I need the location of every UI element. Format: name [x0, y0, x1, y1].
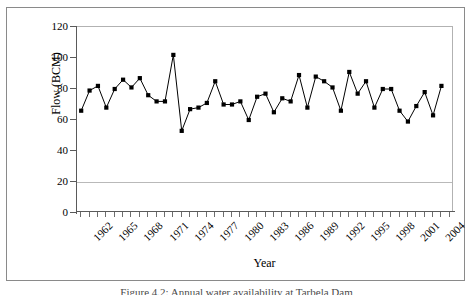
- data-point-marker: [188, 107, 192, 111]
- x-axis-tick: [223, 212, 224, 217]
- data-point-marker: [372, 106, 376, 110]
- series-line: [81, 55, 441, 131]
- x-axis-tick-label: 1992: [343, 220, 366, 243]
- x-axis-tick: [432, 212, 433, 217]
- x-axis-tick: [265, 212, 266, 217]
- x-axis-tick: [348, 212, 349, 217]
- x-axis-tick: [407, 212, 408, 217]
- data-point-marker: [154, 99, 158, 103]
- x-axis-tick-label: 1968: [142, 220, 165, 243]
- x-axis-tick: [323, 212, 324, 217]
- x-axis-tick: [122, 212, 123, 217]
- y-axis-title: Flow (BCM): [49, 24, 64, 144]
- figure-container: 020406080100120 Flow (BCM) 1962196519681…: [0, 0, 473, 295]
- x-axis-tick: [80, 212, 81, 217]
- data-point-marker: [280, 96, 284, 100]
- data-point-marker: [180, 129, 184, 133]
- x-axis-tick: [214, 212, 215, 217]
- x-axis-tick-label: 1995: [368, 220, 391, 243]
- x-axis-tick: [89, 212, 90, 217]
- x-axis-tick: [156, 212, 157, 217]
- data-point-marker: [364, 79, 368, 83]
- x-axis-tick: [315, 212, 316, 217]
- data-point-marker: [247, 118, 251, 122]
- y-axis: 020406080100120: [0, 26, 76, 212]
- data-series-annual-flow: [77, 27, 454, 213]
- x-axis-tick: [97, 212, 98, 217]
- x-axis-tick: [256, 212, 257, 217]
- x-axis-tick: [365, 212, 366, 217]
- data-point-marker: [171, 53, 175, 57]
- x-axis-tick-label: 1962: [92, 220, 115, 243]
- data-point-marker: [381, 87, 385, 91]
- x-axis-tick: [290, 212, 291, 217]
- data-point-marker: [205, 101, 209, 105]
- data-point-marker: [230, 102, 234, 106]
- data-point-marker: [263, 92, 267, 96]
- data-point-marker: [272, 110, 276, 114]
- data-point-marker: [305, 106, 309, 110]
- x-axis-tick-label: 1977: [217, 220, 240, 243]
- data-point-marker: [322, 79, 326, 83]
- x-axis-tick: [181, 212, 182, 217]
- data-point-marker: [129, 85, 133, 89]
- data-point-marker: [96, 84, 100, 88]
- x-axis-tick: [231, 212, 232, 217]
- figure-caption-text: Figure 4.2: Annual water availability at…: [0, 286, 473, 295]
- x-axis-tick: [189, 212, 190, 217]
- data-point-marker: [121, 78, 125, 82]
- data-point-marker: [255, 95, 259, 99]
- x-axis-tick: [332, 212, 333, 217]
- x-axis-tick-label: 1989: [318, 220, 341, 243]
- x-axis-tick: [424, 212, 425, 217]
- data-point-marker: [238, 99, 242, 103]
- x-axis-tick-label: 1998: [393, 220, 416, 243]
- x-axis-tick: [147, 212, 148, 217]
- data-point-marker: [347, 70, 351, 74]
- x-axis-tick-label: 1986: [293, 220, 316, 243]
- x-axis-tick-label: 2001: [418, 220, 441, 243]
- x-axis-tick: [440, 212, 441, 217]
- x-axis-tick: [248, 212, 249, 217]
- x-axis-tick: [449, 212, 450, 217]
- data-point-marker: [330, 85, 334, 89]
- data-point-marker: [431, 113, 435, 117]
- x-axis-tick: [281, 212, 282, 217]
- data-point-marker: [439, 84, 443, 88]
- data-point-marker: [163, 99, 167, 103]
- data-point-marker: [138, 76, 142, 80]
- x-axis-title: Year: [76, 256, 453, 271]
- x-axis-tick: [114, 212, 115, 217]
- data-point-marker: [423, 90, 427, 94]
- x-axis-tick: [373, 212, 374, 217]
- x-axis-tick: [306, 212, 307, 217]
- data-point-marker: [79, 109, 83, 113]
- figure-caption: Figure 4.2: Annual water availability at…: [0, 286, 473, 295]
- data-point-marker: [397, 109, 401, 113]
- x-axis-tick: [399, 212, 400, 217]
- x-axis: 1962196519681971197419771980198319861989…: [76, 212, 455, 282]
- data-point-marker: [314, 75, 318, 79]
- x-axis-tick: [382, 212, 383, 217]
- data-point-marker: [339, 109, 343, 113]
- data-point-marker: [87, 88, 91, 92]
- x-axis-tick-label: 1980: [242, 220, 265, 243]
- x-axis-tick-label: 1971: [167, 220, 190, 243]
- x-axis-tick: [340, 212, 341, 217]
- x-axis-tick: [390, 212, 391, 217]
- data-point-marker: [196, 106, 200, 110]
- data-point-marker: [213, 79, 217, 83]
- y-axis-tick-label: 20: [57, 176, 68, 187]
- x-axis-tick-label: 1983: [268, 220, 291, 243]
- x-axis-tick: [105, 212, 106, 217]
- data-point-marker: [104, 106, 108, 110]
- y-axis-tick-label: 40: [57, 145, 68, 156]
- data-point-marker: [146, 93, 150, 97]
- data-point-marker: [297, 73, 301, 77]
- data-point-marker: [389, 87, 393, 91]
- x-axis-tick: [206, 212, 207, 217]
- plot-area: [76, 26, 453, 212]
- data-point-marker: [289, 99, 293, 103]
- data-point-marker: [406, 119, 410, 123]
- x-axis-tick: [298, 212, 299, 217]
